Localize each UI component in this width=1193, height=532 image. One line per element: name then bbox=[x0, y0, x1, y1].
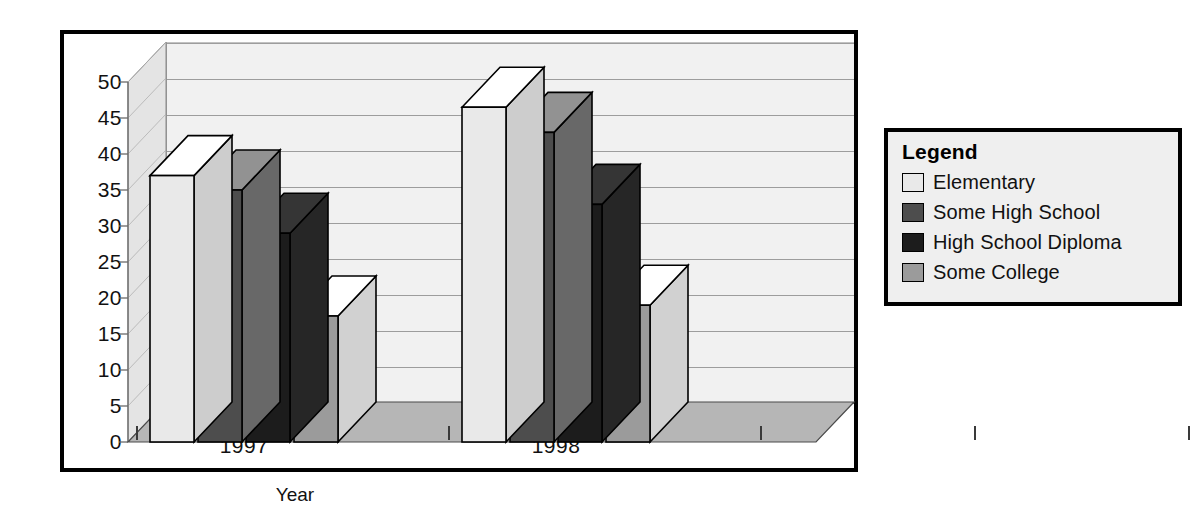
y-axis-tick-labels: 05101520253035404550 bbox=[72, 34, 122, 434]
legend-entry-label: Some High School bbox=[933, 201, 1100, 224]
y-tick-label: 50 bbox=[72, 70, 122, 94]
x-tick-mark bbox=[974, 426, 976, 440]
legend-entry-label: Some College bbox=[933, 261, 1060, 284]
legend-entry: High School Diploma bbox=[902, 227, 1178, 257]
x-tick-mark bbox=[136, 426, 138, 440]
legend-entries: ElementarySome High SchoolHigh School Di… bbox=[902, 167, 1178, 287]
bars-layer: 19971998 bbox=[128, 42, 854, 454]
y-tick-label: 25 bbox=[72, 250, 122, 274]
x-tick-mark bbox=[760, 426, 762, 440]
legend-swatch-icon bbox=[902, 233, 924, 252]
bar-1997-elementary bbox=[150, 42, 232, 454]
y-tick-label: 15 bbox=[72, 322, 122, 346]
legend-title: Legend bbox=[902, 140, 1178, 164]
legend-swatch-icon bbox=[902, 263, 924, 282]
legend-swatch-icon bbox=[902, 173, 924, 192]
x-tick-mark bbox=[1188, 426, 1190, 440]
legend-entry: Elementary bbox=[902, 167, 1178, 197]
plot-area: 19971998 bbox=[128, 42, 854, 454]
y-tick-label: 20 bbox=[72, 286, 122, 310]
x-axis-title: Year bbox=[195, 484, 395, 506]
y-tick-label: 35 bbox=[72, 178, 122, 202]
legend-entry-label: Elementary bbox=[933, 171, 1035, 194]
y-tick-label: 40 bbox=[72, 142, 122, 166]
legend-entry: Some High School bbox=[902, 197, 1178, 227]
y-tick-label: 5 bbox=[72, 394, 122, 418]
x-tick-mark bbox=[448, 426, 450, 440]
y-tick-label: 45 bbox=[72, 106, 122, 130]
legend-entry-label: High School Diploma bbox=[933, 231, 1122, 254]
bar-1998-elementary bbox=[462, 42, 544, 454]
legend-swatch-icon bbox=[902, 203, 924, 222]
chart-frame: 05101520253035404550 19971998 bbox=[60, 30, 858, 472]
y-tick-label: 0 bbox=[72, 430, 122, 454]
y-tick-label: 10 bbox=[72, 358, 122, 382]
y-tick-label: 30 bbox=[72, 214, 122, 238]
legend-entry: Some College bbox=[902, 257, 1178, 287]
legend-box: Legend ElementarySome High SchoolHigh Sc… bbox=[884, 128, 1182, 306]
